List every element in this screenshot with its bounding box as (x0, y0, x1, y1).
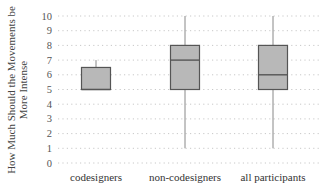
y-tick-label: 0 (47, 158, 52, 169)
y-tick-label: 3 (47, 113, 52, 124)
x-tick-label: all participants (240, 171, 305, 183)
y-tick-label: 7 (47, 55, 52, 66)
box-non-codesigners (171, 16, 200, 148)
box-plot: 012345678910 codesignersnon-codesignersa… (0, 0, 328, 192)
boxes (82, 16, 288, 148)
iqr-box (171, 45, 200, 89)
y-tick-label: 9 (47, 25, 52, 36)
y-tick-label: 6 (47, 69, 52, 80)
y-tick-label: 8 (47, 40, 52, 51)
y-axis-ticks: 012345678910 (42, 11, 53, 169)
y-tick-label: 1 (47, 143, 52, 154)
box-all-participants (259, 16, 288, 148)
y-tick-label: 2 (47, 128, 52, 139)
y-tick-label: 5 (47, 84, 52, 95)
iqr-box (259, 45, 288, 89)
y-tick-label: 10 (42, 11, 53, 22)
x-axis-labels: codesignersnon-codesignersall participan… (70, 171, 306, 183)
iqr-box (82, 67, 111, 89)
y-tick-label: 4 (47, 99, 53, 110)
x-tick-label: non-codesigners (149, 171, 221, 183)
box-codesigners (82, 60, 111, 89)
x-tick-label: codesigners (70, 171, 122, 183)
